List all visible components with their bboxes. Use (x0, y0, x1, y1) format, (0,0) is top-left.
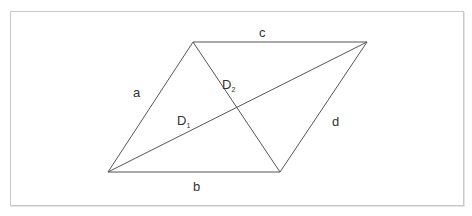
label-d: d (332, 114, 339, 129)
side-a (108, 42, 193, 172)
label-d2-sub: 2 (231, 86, 235, 93)
parallelogram-diagram: a b c d D1 D2 (0, 0, 472, 216)
label-d1: D1 (177, 113, 190, 129)
label-c: c (259, 25, 266, 40)
diagonal-d2 (193, 42, 280, 172)
side-d (280, 42, 367, 172)
label-d2: D2 (222, 77, 235, 93)
label-d2-main: D (222, 77, 231, 92)
label-d1-sub: 1 (186, 122, 190, 129)
label-d1-main: D (177, 113, 186, 128)
label-a: a (133, 85, 141, 100)
diagonal-d1 (108, 42, 367, 172)
label-b: b (193, 179, 200, 194)
